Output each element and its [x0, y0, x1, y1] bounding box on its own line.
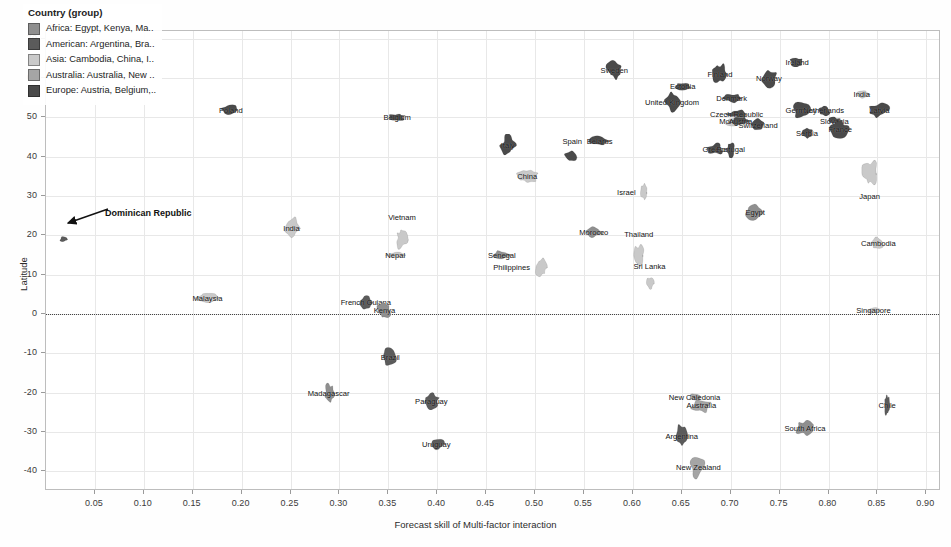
legend-item-label: Europe: Austria, Belgium,..: [46, 86, 156, 95]
data-point-argentina[interactable]: Argentina: [674, 421, 690, 451]
country-shape-icon: [562, 150, 582, 164]
country-shape-icon: [711, 62, 729, 86]
x-tick-label: 0.15: [183, 498, 201, 508]
x-axis-title: Forecast skill of Multi-factor interacti…: [0, 519, 951, 530]
data-point-egypt[interactable]: Egypt: [744, 203, 766, 221]
x-tick: [925, 490, 926, 494]
x-tick: [876, 490, 877, 494]
y-tick-label: 10: [7, 269, 37, 279]
country-shape-icon: [688, 396, 714, 414]
data-point-new-zealand[interactable]: New Zealand: [689, 454, 707, 480]
data-point-spain[interactable]: Spain: [562, 150, 582, 164]
data-point-singapore[interactable]: Singapore: [865, 307, 883, 314]
x-gridline: [339, 31, 340, 489]
data-point-paraguay[interactable]: Paraguay: [421, 392, 441, 410]
data-point-belgium[interactable]: Belgium: [387, 113, 407, 121]
data-point-estonia[interactable]: Estonia: [673, 82, 693, 91]
data-point-senegal[interactable]: Senegal: [492, 249, 512, 261]
legend: Country (group) Africa: Egypt, Kenya, Ma…: [23, 4, 162, 105]
data-point-south-africa[interactable]: South Africa: [794, 420, 816, 436]
data-point-thailand[interactable]: Thailand: [633, 243, 645, 267]
legend-item-label: Australia: Australia, New ..: [46, 71, 155, 80]
country-shape-icon: [869, 236, 887, 250]
data-point-serbia[interactable]: Serbia: [800, 126, 814, 140]
data-point-morocco[interactable]: Morocco: [583, 226, 605, 238]
data-point-germany[interactable]: Germany: [791, 99, 811, 121]
data-point-brazil[interactable]: Brazil: [378, 344, 402, 370]
country-shape-icon: [58, 236, 69, 242]
legend-item-american[interactable]: American: Argentina, Bra..: [28, 38, 156, 50]
legend-item-label: Africa: Egypt, Kenya, Ma..: [46, 24, 153, 33]
y-tick-label: 0: [7, 308, 37, 318]
x-tick-label: 0.25: [281, 498, 299, 508]
country-shape-icon: [861, 158, 879, 188]
y-tick-label: -10: [7, 347, 37, 357]
data-point-france[interactable]: France: [829, 119, 851, 139]
data-point-finland[interactable]: Finland: [711, 62, 729, 86]
country-shape-icon: [791, 99, 811, 121]
chart-root: Latitude Forecast skill of Multi-factor …: [0, 0, 951, 547]
data-point-cambodia[interactable]: Cambodia: [869, 236, 887, 250]
country-shape-icon: [663, 91, 681, 113]
country-shape-icon: [748, 118, 768, 132]
country-shape-icon: [192, 293, 222, 304]
data-point-ireland[interactable]: Ireland: [789, 57, 805, 67]
data-point-malaysia[interactable]: Malaysia: [192, 293, 222, 304]
data-point-kenya[interactable]: Kenya: [375, 301, 393, 319]
country-shape-icon: [396, 226, 409, 252]
x-gridline: [780, 31, 781, 489]
data-point-sweden[interactable]: Sweden: [605, 59, 623, 81]
data-point-dominican-republic[interactable]: [58, 236, 69, 242]
y-gridline: [46, 393, 939, 394]
country-shape-icon: [218, 104, 244, 116]
country-shape-icon: [705, 142, 725, 156]
y-tick-label: 20: [7, 229, 37, 239]
legend-item-europe[interactable]: Europe: Austria, Belgium,..: [28, 85, 156, 97]
data-point-french-guiana[interactable]: French Guiana: [359, 294, 373, 310]
x-tick-label: 0.35: [378, 498, 396, 508]
data-point-latvia[interactable]: Latvia: [867, 101, 891, 119]
data-point-norway[interactable]: Norway: [759, 67, 779, 89]
x-tick: [290, 490, 291, 494]
data-point-portugal[interactable]: Portugal: [726, 140, 736, 158]
data-point-italy[interactable]: Italy: [499, 134, 517, 156]
y-gridline: [46, 39, 939, 40]
data-point-sri-lanka[interactable]: Sri Lanka: [645, 275, 655, 291]
country-shape-icon: [853, 89, 871, 99]
data-point-israel[interactable]: Israel: [640, 181, 648, 203]
data-point-vietnam[interactable]: Vietnam: [396, 226, 409, 252]
country-shape-icon: [633, 243, 645, 267]
legend-item-australia[interactable]: Australia: Australia, New ..: [28, 69, 156, 81]
country-shape-icon: [726, 140, 736, 158]
x-gridline: [242, 31, 243, 489]
data-point-india[interactable]: India: [853, 89, 871, 99]
x-tick: [94, 490, 95, 494]
y-gridline: [46, 471, 939, 472]
data-point-japan[interactable]: Japan: [861, 158, 879, 188]
country-shape-icon: [744, 203, 766, 221]
country-shape-icon: [514, 168, 540, 184]
plot-area[interactable]: MalaysiaPolandIndiaMadagascarFrench Guia…: [45, 30, 940, 490]
data-point-netherlands[interactable]: Netherlands: [816, 103, 832, 117]
legend-item-asia[interactable]: Asia: Cambodia, China, I..: [28, 54, 156, 66]
data-point-united-kingdom[interactable]: United Kingdom: [663, 91, 681, 113]
data-point-madagascar[interactable]: Madagascar: [323, 381, 335, 405]
country-shape-icon: [674, 421, 690, 451]
data-point-belarus[interactable]: Belarus: [588, 135, 612, 147]
data-point-china[interactable]: China: [514, 168, 540, 184]
data-point-australia[interactable]: Australia: [688, 396, 714, 414]
data-point-uruguay[interactable]: Uruguay: [427, 436, 445, 452]
country-shape-icon: [865, 307, 883, 314]
x-tick-label: 0.10: [134, 498, 152, 508]
x-tick: [779, 490, 780, 494]
data-point-philippines[interactable]: Philippines: [534, 256, 548, 278]
legend-item-africa[interactable]: Africa: Egypt, Kenya, Ma..: [28, 23, 156, 35]
x-gridline: [291, 31, 292, 489]
data-point-greece[interactable]: Greece: [705, 142, 725, 156]
data-point-poland[interactable]: Poland: [218, 104, 244, 116]
data-point-chile[interactable]: Chile: [884, 392, 890, 418]
data-point-denmark[interactable]: Denmark: [720, 92, 744, 104]
country-shape-icon: [375, 301, 393, 319]
data-point-india[interactable]: India: [283, 215, 301, 241]
data-point-switzerland[interactable]: Switzerland: [748, 118, 768, 132]
